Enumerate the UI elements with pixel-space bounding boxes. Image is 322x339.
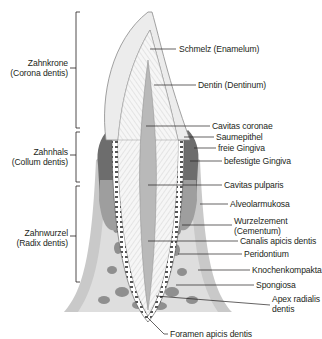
region-root-label: Zahnwurzel (Radix dentis)	[0, 228, 68, 248]
label-dentin: Dentin (Dentinum)	[198, 80, 266, 90]
label-befestigte-gingiva: befestigte Gingiva	[224, 156, 291, 166]
region-brackets	[70, 12, 80, 282]
label-peridontium: Peridontium	[244, 249, 289, 259]
label-alveolarmukosa: Alveolarmukosa	[230, 199, 290, 209]
crown-label: Zahnkrone	[0, 58, 68, 68]
root-latin: (Radix dentis)	[0, 238, 68, 248]
apex-label: Apex radialis	[272, 294, 320, 304]
neck-latin: (Collum dentis)	[0, 157, 68, 167]
label-foramen: Foramen apicis dentis	[170, 329, 252, 339]
label-cavitas-coronae: Cavitas coronae	[212, 121, 273, 131]
cementum-label: (Cementum)	[234, 226, 288, 236]
label-wurzelzement: Wurzelzement (Cementum)	[234, 216, 288, 236]
label-freie-gingiva: freie Gingiva	[218, 143, 265, 153]
label-cavitas-pulparis: Cavitas pulparis	[224, 180, 284, 190]
wurzelzement-label: Wurzelzement	[234, 216, 288, 226]
label-canalis: Canalis apicis dentis	[240, 236, 316, 246]
apex-label-2: dentis	[272, 304, 320, 314]
label-saumepithel: Saumepithel	[216, 132, 263, 142]
label-knochenkompakta: Knochenkompakta	[252, 265, 322, 275]
region-crown-label: Zahnkrone (Corona dentis)	[0, 58, 68, 78]
neck-label: Zahnhals	[0, 147, 68, 157]
label-spongiosa: Spongiosa	[256, 280, 296, 290]
crown-latin: (Corona dentis)	[0, 68, 68, 78]
label-apex: Apex radialis dentis	[272, 294, 320, 314]
label-enamel: Schmelz (Enamelum)	[179, 44, 259, 54]
root-label: Zahnwurzel	[0, 228, 68, 238]
region-neck-label: Zahnhals (Collum dentis)	[0, 147, 68, 167]
